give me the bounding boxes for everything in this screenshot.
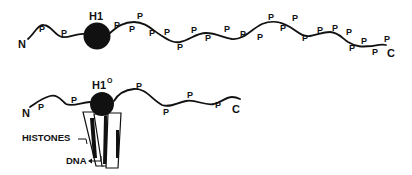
phospho-site: P [280, 23, 286, 33]
phospho-site: P [149, 28, 155, 38]
phospho-site: P [71, 95, 77, 105]
phospho-site: P [372, 47, 378, 57]
histones-label: HISTONES [22, 132, 70, 143]
nucleosome-histone-core [83, 112, 121, 168]
phospho-site: P [114, 20, 120, 30]
phospho-site: P [292, 13, 298, 23]
phospho-site: P [136, 81, 142, 91]
phospho-site: P [240, 29, 246, 39]
phospho-site: P [61, 28, 67, 38]
phospho-site: P [215, 100, 221, 110]
phospho-site: P [39, 24, 45, 34]
phospho-site: P [38, 102, 44, 112]
bottom-h1-label: H1 [92, 79, 106, 91]
phospho-site: P [163, 107, 169, 117]
top-n-terminal-tail [28, 25, 85, 39]
dna-label: DNA [66, 155, 87, 166]
phospho-site: P [187, 90, 193, 100]
phospho-site: P [349, 43, 355, 53]
bottom-n-terminus-label: N [22, 107, 30, 119]
phospho-site: P [191, 25, 197, 35]
bottom-h1-zero-globular-domain [90, 92, 114, 116]
phospho-site: P [177, 42, 183, 52]
phospho-site: P [361, 36, 367, 46]
top-h1-label: H1 [89, 10, 103, 22]
dna-strand-right [116, 130, 119, 158]
phospho-site: P [164, 27, 170, 37]
top-c-terminus-label: C [387, 47, 395, 59]
phospho-site: P [268, 12, 274, 22]
bottom-h1-superscript: O [107, 77, 113, 84]
phospho-site: P [302, 33, 308, 43]
phospho-site: P [257, 32, 263, 42]
top-h1-molecule: H1 N C P P P P P P P P P P P P P P P P P… [18, 10, 395, 59]
phospho-site: P [137, 11, 143, 21]
bottom-c-terminal-tail [114, 89, 240, 106]
bottom-phospho-sites: P P P P P P [38, 81, 221, 117]
top-h1-globular-domain [84, 23, 111, 50]
phospho-site: P [224, 24, 230, 34]
histones-leader-line [78, 139, 87, 144]
h1-phosphorylation-diagram: H1 N C P P P P P P P P P P P P P P P P P… [0, 0, 412, 175]
top-n-terminus-label: N [18, 38, 26, 50]
phospho-site: P [384, 34, 390, 44]
bottom-h1-zero-molecule: H1 O N C P P P P P P HISTONES DNA [22, 77, 240, 168]
phospho-site: P [129, 24, 135, 34]
phospho-site: P [317, 25, 323, 35]
phospho-site: P [346, 27, 352, 37]
bottom-c-terminus-label: C [232, 103, 240, 115]
phospho-site: P [332, 23, 338, 33]
phospho-site: P [205, 33, 211, 43]
dna-arrow-head [88, 159, 92, 164]
